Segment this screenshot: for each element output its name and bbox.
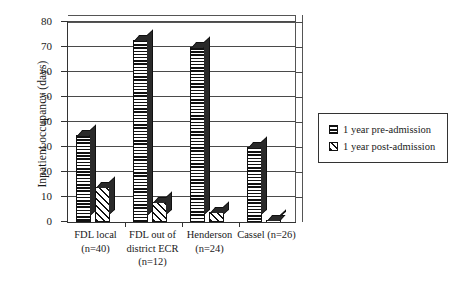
plot-area: 01020304050607080 [67, 22, 296, 223]
bar-post-admission [209, 212, 224, 222]
bar-pre-admission [247, 147, 262, 222]
bar-face [210, 213, 223, 221]
gridline-riser [296, 90, 303, 98]
bar-pre-admission [190, 47, 205, 222]
chart-legend: 1 year pre-admission 1 year post-admissi… [318, 113, 448, 163]
bar-face [248, 148, 261, 221]
legend-swatch-post-admission-icon [329, 142, 338, 151]
y-axis-tick-label: 10 [41, 189, 52, 204]
gridline-riser [296, 15, 303, 23]
y-axis-tick-label: 60 [41, 64, 52, 79]
bar-face [191, 48, 204, 221]
gridline [68, 96, 296, 97]
y-axis-tick-label: 70 [41, 39, 52, 54]
legend-label-post-admission: 1 year post-admission [343, 141, 435, 153]
legend-label-pre-admission: 1 year pre-admission [343, 124, 431, 136]
y-axis-tick: 20 [61, 171, 68, 172]
gridline-riser [296, 115, 303, 123]
y-axis-tick: 0 [61, 221, 68, 222]
bar-pre-admission [76, 135, 91, 223]
bar-post-admission [266, 220, 281, 223]
y-axis-tick-label: 30 [41, 139, 52, 154]
chart-figure: Inpatient occupancy (days) 0102030405060… [0, 0, 455, 281]
bar-side-3d [204, 37, 210, 215]
x-axis-tick [125, 222, 126, 227]
legend-item: 1 year post-admission [319, 138, 447, 155]
y-axis-tick-label: 0 [47, 214, 53, 229]
gridline-riser [296, 140, 303, 148]
bar-side-3d [261, 137, 267, 215]
y-axis-tick: 50 [61, 96, 68, 97]
y-axis-tick-label: 20 [41, 164, 52, 179]
y-axis-tick: 70 [61, 46, 68, 47]
y-axis-tick-label: 40 [41, 114, 52, 129]
bar-face [77, 136, 90, 222]
y-axis-tick: 10 [61, 196, 68, 197]
gridline [68, 121, 296, 122]
y-axis-tick-label: 50 [41, 89, 52, 104]
bar-face [96, 188, 109, 221]
x-axis-tick [239, 222, 240, 227]
y-axis-tick: 30 [61, 146, 68, 147]
gridline-riser [296, 65, 303, 73]
bar-post-admission [95, 187, 110, 222]
gridline-riser [296, 190, 303, 198]
bar-side-3d [109, 177, 115, 215]
legend-swatch-pre-admission-icon [329, 125, 338, 134]
gridline [68, 46, 296, 47]
legend-item: 1 year pre-admission [319, 121, 447, 138]
x-axis-group-label: Cassel (n=26) [227, 228, 307, 242]
gridline [68, 21, 296, 22]
gridline [68, 71, 296, 72]
y-axis-tick: 40 [61, 121, 68, 122]
y-axis-tick-label: 80 [41, 14, 52, 29]
gridline-riser [296, 40, 303, 48]
bar-face [153, 203, 166, 221]
bar-pre-admission [133, 40, 148, 223]
gridline-riser [296, 165, 303, 173]
bar-side-3d [147, 29, 153, 215]
x-axis-tick [182, 222, 183, 227]
y-axis-tick: 60 [61, 71, 68, 72]
bar-face [134, 41, 147, 222]
y-axis-tick: 80 [61, 21, 68, 22]
bar-post-admission [152, 202, 167, 222]
